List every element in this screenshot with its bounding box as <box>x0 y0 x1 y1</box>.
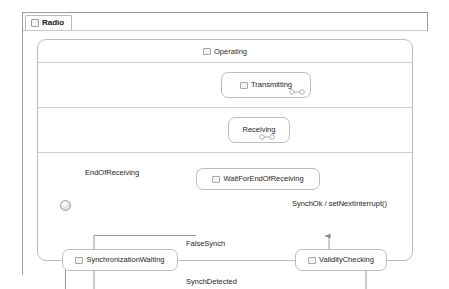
tab-radio[interactable]: Radio <box>25 15 72 30</box>
receiving-region: Receiving <box>38 107 412 152</box>
state-synchronization-waiting-label: SynchronizationWaiting <box>86 256 164 264</box>
state-validity-checking-label: ValidityChecking <box>319 256 374 264</box>
transition-label-end-of-receiving: EndOfReceiving <box>85 169 139 177</box>
state-transmitting[interactable]: Transmitting <box>221 72 311 98</box>
simple-state-icon <box>212 176 220 183</box>
state-operating[interactable]: Operating Transmitting <box>37 39 413 261</box>
tab-radio-label: Radio <box>42 19 64 27</box>
submachine-marker-icon <box>259 134 275 140</box>
state-transmitting-label: Transmitting <box>251 81 292 89</box>
tab-bar: Radio <box>23 13 427 31</box>
state-operating-label: Operating <box>214 47 247 56</box>
state-operating-title: Operating <box>38 40 412 62</box>
composite-state-icon <box>203 48 211 55</box>
submachine-marker-icon <box>289 89 305 95</box>
simple-state-icon <box>308 257 316 264</box>
state-receiving-label: Receiving <box>243 126 276 134</box>
composite-state-icon <box>240 82 248 89</box>
state-machine-icon <box>31 19 39 27</box>
transition-label-false-synch: FalseSynch <box>186 240 225 248</box>
state-wait-for-end-of-receiving-label: WaitForEndOfReceiving <box>223 175 303 183</box>
diagram-canvas[interactable]: Operating Transmitting <box>23 31 429 275</box>
editor-frame: Radio Operating Transmitting <box>22 12 428 275</box>
state-wait-for-end-of-receiving[interactable]: WaitForEndOfReceiving <box>196 168 320 190</box>
simple-state-icon <box>75 257 83 264</box>
transmitting-region: Transmitting <box>38 62 412 107</box>
synchronization-region: WaitForEndOfReceiving SynchronizationWai… <box>38 152 412 261</box>
state-synchronization-waiting[interactable]: SynchronizationWaiting <box>62 249 178 271</box>
initial-pseudostate[interactable] <box>60 200 71 211</box>
transition-label-synch-detected: SynchDetected <box>186 278 237 286</box>
state-validity-checking[interactable]: ValidityChecking <box>295 249 387 271</box>
state-receiving[interactable]: Receiving <box>228 117 290 143</box>
transition-label-synch-ok: SynchOk / setNextInterrupt() <box>292 200 387 208</box>
